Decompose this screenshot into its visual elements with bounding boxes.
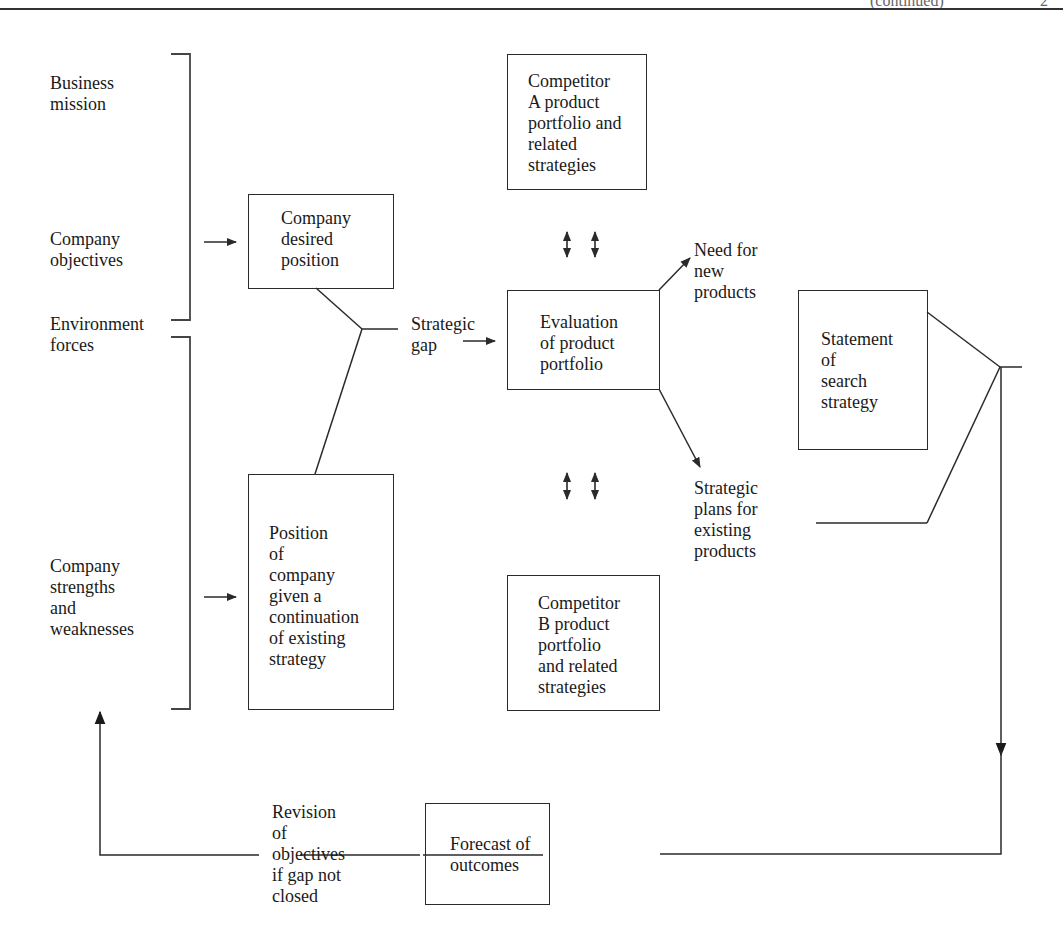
lower-bracket [171, 337, 190, 709]
label-company-objectives: Company objectives [50, 229, 123, 271]
competitor-b-double-arrows [567, 473, 595, 499]
label-company-strengths: Company strengths and weaknesses [50, 556, 134, 640]
box-competitor-a-label: Competitor A product portfolio and relat… [528, 71, 621, 176]
box-competitor-b: Competitor B product portfolio and relat… [507, 575, 660, 711]
label-business-mission: Business mission [50, 73, 114, 115]
box-desired-position: Company desired position [248, 194, 394, 289]
box-continuation-position-label: Position of company given a continuation… [269, 523, 359, 670]
box-forecast: Forecast of outcomes [425, 803, 550, 905]
route-to-forecast [660, 750, 1001, 854]
competitor-a-double-arrows [567, 232, 595, 257]
strategic-gap-merge [315, 288, 398, 474]
label-strategic-plans: Strategic plans for existing products [694, 478, 758, 562]
box-competitor-a: Competitor A product portfolio and relat… [507, 54, 647, 190]
box-statement-label: Statement of search strategy [821, 329, 893, 413]
label-environment-forces: Environment forces [50, 314, 144, 356]
box-forecast-label: Forecast of outcomes [450, 834, 530, 876]
arrow-to-strategic-plans [659, 389, 700, 467]
box-statement: Statement of search strategy [798, 290, 928, 450]
diagram-canvas: (continued) 2 [0, 0, 1063, 949]
box-evaluation-label: Evaluation of product portfolio [540, 312, 618, 375]
label-need-new-products: Need for new products [694, 240, 757, 303]
arrow-to-need-new-products [659, 258, 690, 290]
box-competitor-b-label: Competitor B product portfolio and relat… [538, 593, 620, 698]
label-strategic-gap: Strategic gap [411, 314, 475, 356]
feedback-arrow-up [100, 712, 259, 855]
box-continuation-position: Position of company given a continuation… [248, 474, 394, 710]
upper-bracket [171, 54, 190, 320]
box-desired-position-label: Company desired position [281, 208, 351, 271]
box-evaluation: Evaluation of product portfolio [507, 290, 660, 390]
label-revision-objectives: Revision of objectives if gap not closed [272, 802, 345, 907]
